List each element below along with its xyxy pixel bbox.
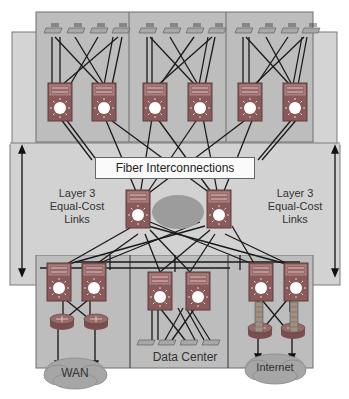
wan-label: WAN [55, 367, 95, 380]
fiber-interconnections-label: Fiber Interconnections [95, 157, 255, 179]
left-links-line-2: Equal-Cost [42, 200, 112, 213]
left-links-line-1: Layer 3 [42, 187, 112, 200]
right-links-line-1: Layer 3 [260, 187, 330, 200]
left-links-label: Layer 3 Equal-Cost Links [42, 187, 112, 226]
right-links-line-3: Links [260, 213, 330, 226]
left-links-line-3: Links [42, 213, 112, 226]
data-center-label: Data Center [145, 351, 225, 364]
right-links-label: Layer 3 Equal-Cost Links [260, 187, 330, 226]
core-cloud [152, 195, 204, 229]
right-links-line-2: Equal-Cost [260, 200, 330, 213]
internet-label: Internet [250, 361, 300, 374]
